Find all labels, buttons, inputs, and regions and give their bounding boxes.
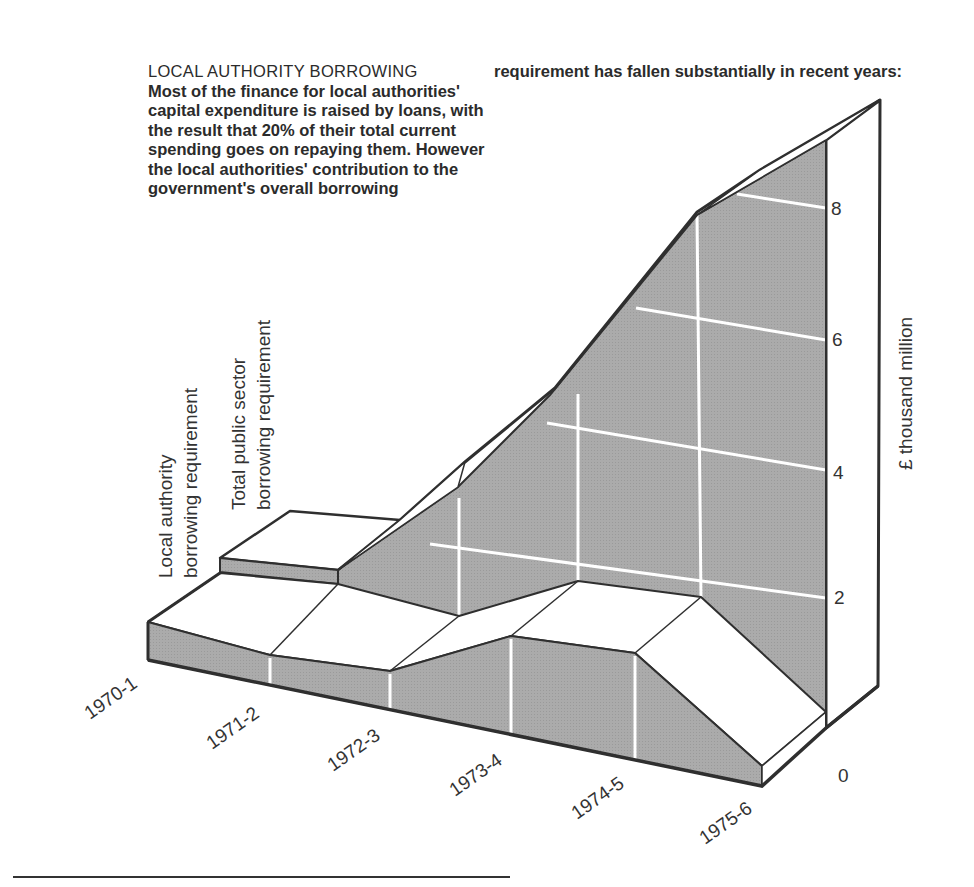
x-label-1974-5: 1974-5 xyxy=(567,772,628,823)
y-tick-2: 2 xyxy=(834,587,845,608)
chart-3d-area: 0 2 4 6 8 £ thousand million Local autho… xyxy=(0,0,974,887)
y-tick-6: 6 xyxy=(832,329,843,350)
legend-la-line2: borrowing requirement xyxy=(180,387,201,578)
y-tick-8: 8 xyxy=(831,198,842,219)
x-label-1972-3: 1972-3 xyxy=(323,724,384,775)
x-label-1973-4: 1973-4 xyxy=(445,749,506,800)
x-label-1970-1: 1970-1 xyxy=(80,672,141,723)
legend-la-line1: Local authority xyxy=(155,454,176,578)
y-tick-0: 0 xyxy=(838,765,849,786)
x-label-1971-2: 1971-2 xyxy=(202,702,263,753)
y-axis-panel xyxy=(826,100,880,728)
x-label-1975-6: 1975-6 xyxy=(695,797,756,848)
legend-ps-line2: borrowing requirement xyxy=(253,319,274,510)
legend-ps-line1: Total public sector xyxy=(228,357,249,510)
y-axis-label: £ thousand million xyxy=(895,317,916,470)
y-tick-4: 4 xyxy=(833,462,844,483)
